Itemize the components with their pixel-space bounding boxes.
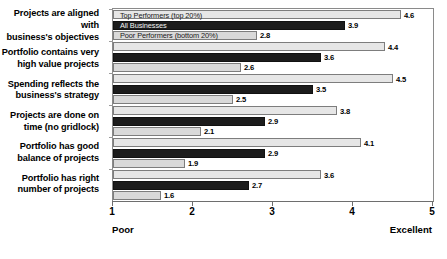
bar: [113, 170, 321, 179]
bar-value-label: 2.9: [265, 117, 278, 126]
bar-value-label: 3.5: [313, 85, 326, 94]
bar-row: Top Performers (top 20%)4.6: [113, 10, 433, 19]
bar: Top Performers (top 20%): [113, 10, 401, 19]
bar: [113, 53, 321, 62]
bar-row: 4.5: [113, 74, 433, 83]
bar: [113, 95, 233, 104]
bar: [113, 149, 265, 158]
legend-label: Top Performers (top 20%): [120, 10, 202, 19]
category-label: Portfolio has goodbalance of projects: [0, 137, 104, 168]
bar-value-label: 4.4: [385, 42, 398, 51]
bar: Poor Performers (bottom 20%): [113, 31, 257, 40]
category-label: Projects are done ontime (no gridlock): [0, 106, 104, 137]
bar: [113, 191, 161, 200]
axis-label-excellent: Excellent: [390, 224, 432, 235]
plot-area: Top Performers (top 20%)4.6All Businesse…: [112, 8, 434, 202]
x-axis-endpoint-labels: Poor Excellent: [112, 224, 432, 238]
bar: [113, 159, 185, 168]
legend-label: All Businesses: [120, 21, 167, 30]
bar-group: 4.43.62.6: [113, 41, 433, 73]
bar-value-label: 4.1: [361, 138, 374, 147]
bar-row: 3.6: [113, 170, 433, 179]
bar: [113, 138, 361, 147]
category-label-line: business's objectives: [0, 32, 99, 44]
legend-label: Poor Performers (bottom 20%): [120, 31, 218, 40]
category-label-line: business's strategy: [8, 90, 99, 102]
bar-value-label: 3.9: [345, 21, 358, 30]
category-label-line: Portfolio has right: [18, 173, 99, 185]
bar: [113, 42, 385, 51]
bar: [113, 85, 313, 94]
bar: [113, 181, 249, 190]
bar-value-label: 3.6: [321, 53, 334, 62]
bar-row: All Businesses3.9: [113, 21, 433, 30]
grouped-bar-chart: Projects are aligned withbusiness's obje…: [0, 0, 447, 259]
bar-row: 2.6: [113, 63, 433, 72]
bar-value-label: 2.7: [249, 181, 262, 190]
bar-row: 2.9: [113, 117, 433, 126]
bar-row: 1.9: [113, 159, 433, 168]
bar-value-label: 2.5: [233, 95, 246, 104]
bar-value-label: 2.1: [201, 127, 214, 136]
bar-group: 3.62.71.6: [113, 169, 433, 201]
category-axis-labels: Projects are aligned withbusiness's obje…: [0, 8, 104, 200]
category-label-line: Projects are done on: [10, 110, 99, 122]
bar-value-label: 1.6: [161, 191, 174, 200]
category-label-line: balance of projects: [17, 153, 99, 165]
bar: All Businesses: [113, 21, 345, 30]
x-axis-tick-label: 3: [269, 206, 275, 217]
bar-group: 4.12.91.9: [113, 137, 433, 169]
bar-row: 2.5: [113, 95, 433, 104]
bar-row: 4.4: [113, 42, 433, 51]
category-label: Portfolio contains veryhigh value projec…: [0, 43, 104, 74]
bar-value-label: 3.8: [337, 106, 350, 115]
bar-row: 2.1: [113, 127, 433, 136]
category-label-line: Spending reflects the: [8, 79, 99, 91]
bar-row: 3.8: [113, 106, 433, 115]
bar-row: Poor Performers (bottom 20%)2.8: [113, 31, 433, 40]
category-label-line: time (no gridlock): [10, 122, 99, 134]
x-axis-tick-labels: 12345: [112, 206, 432, 220]
category-label: Spending reflects thebusiness's strategy: [0, 75, 104, 106]
bar: [113, 74, 393, 83]
x-axis-tick-label: 5: [429, 206, 435, 217]
bar: [113, 117, 265, 126]
category-label-line: Portfolio contains very: [2, 47, 99, 59]
category-label: Projects are aligned withbusiness's obje…: [0, 8, 104, 43]
bar-group: 3.82.92.1: [113, 105, 433, 137]
bar-row: 1.6: [113, 191, 433, 200]
bar-value-label: 2.9: [265, 149, 278, 158]
category-label-line: Portfolio has good: [17, 141, 99, 153]
category-label-line: number of projects: [18, 184, 99, 196]
category-label-line: high value projects: [2, 59, 99, 71]
bar-value-label: 3.6: [321, 170, 334, 179]
x-axis-tick-label: 1: [109, 206, 115, 217]
x-axis-tick-label: 4: [349, 206, 355, 217]
x-axis-tick-label: 2: [189, 206, 195, 217]
axis-label-poor: Poor: [112, 224, 134, 235]
bar-row: 2.7: [113, 181, 433, 190]
bar-value-label: 2.6: [241, 63, 254, 72]
bar-row: 3.5: [113, 85, 433, 94]
bar-value-label: 4.6: [401, 10, 414, 19]
bar-value-label: 4.5: [393, 74, 406, 83]
bar: [113, 127, 201, 136]
bar: [113, 63, 241, 72]
bar-row: 2.9: [113, 149, 433, 158]
bar-row: 3.6: [113, 53, 433, 62]
bar-value-label: 1.9: [185, 159, 198, 168]
bar-groups: Top Performers (top 20%)4.6All Businesse…: [113, 9, 433, 201]
bar-group: Top Performers (top 20%)4.6All Businesse…: [113, 9, 433, 41]
bar-value-label: 2.8: [257, 31, 270, 40]
category-label: Portfolio has rightnumber of projects: [0, 169, 104, 200]
bar-group: 4.53.52.5: [113, 73, 433, 105]
bar: [113, 106, 337, 115]
category-label-line: Projects are aligned with: [0, 8, 99, 32]
bar-row: 4.1: [113, 138, 433, 147]
